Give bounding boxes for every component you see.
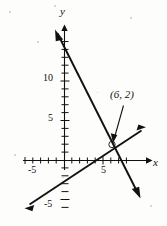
scan-speck — [62, 176, 64, 178]
shallow-ascending-line — [25, 124, 147, 211]
annotation-pointer-arrow — [111, 106, 124, 144]
scan-speck — [97, 92, 98, 93]
steep-line-arrowhead-top — [55, 30, 63, 42]
scan-speck — [9, 11, 11, 13]
scan-speck — [150, 205, 152, 207]
y-tick-label-neg5: -5 — [44, 199, 52, 209]
intersection-point-label: (6, 2) — [110, 89, 134, 100]
scan-speck — [54, 5, 56, 7]
steep-descending-line — [55, 30, 141, 199]
x-tick-label-pos5: 5 — [101, 165, 106, 175]
scan-speck — [130, 17, 132, 19]
scan-speck — [14, 154, 16, 156]
shallow-line-arrowhead-right — [137, 124, 147, 130]
steep-line-arrowhead-bottom — [132, 187, 141, 199]
y-axis-arrowhead — [61, 25, 67, 32]
y-axis-label: y — [60, 6, 65, 17]
shallow-line-arrowhead-left — [25, 205, 35, 211]
scan-speck — [37, 41, 39, 43]
coordinate-graph-figure: y x -5 5 10 5 -5 (6, 2) — [0, 0, 167, 226]
steep-line-segment — [58, 34, 138, 193]
x-axis-label: x — [153, 157, 158, 168]
annotation-pointer-line — [115, 106, 124, 138]
graph-canvas — [0, 0, 167, 226]
y-tick-label-5: 5 — [48, 113, 53, 123]
y-tick-label-10: 10 — [43, 73, 53, 83]
x-tick-label-neg5: -5 — [28, 165, 36, 175]
x-axis-arrowhead — [146, 157, 153, 163]
